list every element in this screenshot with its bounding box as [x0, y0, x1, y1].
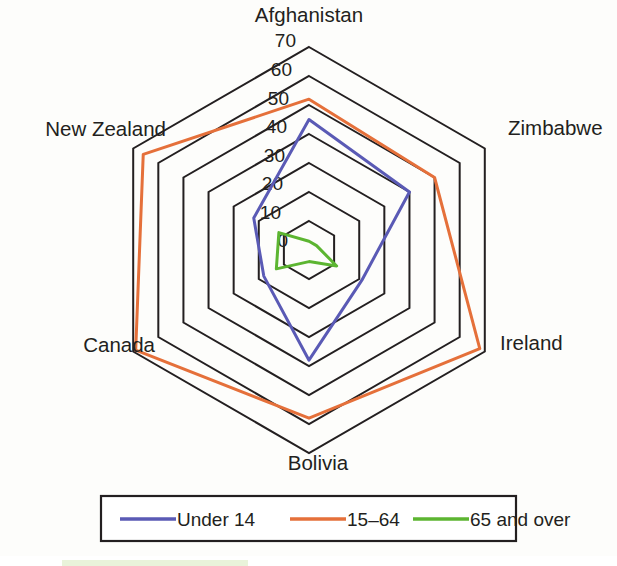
grid-ring-10 — [284, 221, 334, 279]
axis-label-new-zealand: New Zealand — [45, 117, 166, 140]
radar-chart-figure: 706050403020100 AfghanistanZimbabweIrela… — [0, 0, 617, 566]
radial-tick-60: 60 — [271, 59, 292, 80]
radial-tick-10: 10 — [260, 202, 281, 223]
grid-ring-70 — [133, 47, 485, 453]
legend-label-2: 65 and over — [470, 509, 571, 530]
axis-label-zimbabwe: Zimbabwe — [508, 116, 603, 139]
grid-ring-50 — [183, 105, 434, 395]
radial-tick-40: 40 — [266, 116, 287, 137]
radial-tick-30: 30 — [264, 145, 285, 166]
radial-tick-labels: 706050403020100 — [260, 30, 296, 251]
radar-grid — [133, 47, 485, 453]
axis-label-ireland: Ireland — [500, 331, 563, 354]
axis-label-canada: Canada — [83, 333, 155, 356]
grid-ring-30 — [234, 163, 385, 337]
legend-label-1: 15–64 — [347, 509, 400, 530]
axis-label-bolivia: Bolivia — [288, 451, 349, 474]
radar-chart-canvas: 706050403020100 AfghanistanZimbabweIrela… — [0, 0, 617, 566]
category-axis-labels: AfghanistanZimbabweIrelandBoliviaCanadaN… — [45, 3, 602, 474]
grid-ring-60 — [158, 76, 459, 424]
radial-tick-70: 70 — [275, 30, 296, 51]
chart-legend: Under 1415–6465 and over — [101, 496, 571, 541]
axis-label-afghanistan: Afghanistan — [255, 3, 363, 26]
bottom-accent-strip — [62, 560, 248, 566]
legend-label-0: Under 14 — [177, 509, 256, 530]
